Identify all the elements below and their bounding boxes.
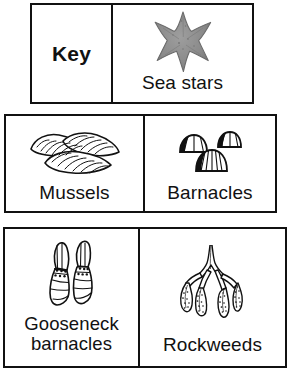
key-entry-label-mussels: Mussels bbox=[6, 183, 143, 211]
intertidal-organisms-key: Key bbox=[0, 0, 297, 381]
key-entry-label-sea-stars: Sea stars bbox=[113, 73, 252, 102]
key-entry-label-line-2: barnacles bbox=[5, 334, 138, 355]
key-title-label: Key bbox=[52, 42, 91, 66]
key-entry-mussels: Mussels bbox=[6, 116, 145, 211]
key-entry-gooseneck-barnacles: Gooseneck barnacles bbox=[5, 229, 140, 366]
mussels-icon bbox=[6, 116, 143, 183]
rockweeds-icon bbox=[140, 229, 285, 335]
key-title-cell: Key bbox=[32, 5, 113, 102]
key-entry-sea-stars: Sea stars bbox=[113, 5, 252, 102]
barnacles-icon bbox=[145, 116, 275, 183]
key-entry-barnacles: Barnacles bbox=[145, 116, 275, 211]
key-row-3: Gooseneck barnacles bbox=[3, 227, 287, 368]
sea-star-icon bbox=[113, 5, 252, 73]
key-entry-label-gooseneck-barnacles: Gooseneck barnacles bbox=[5, 314, 138, 366]
key-entry-label-rockweeds: Rockweeds bbox=[140, 335, 285, 366]
key-row-1: Key bbox=[30, 3, 254, 104]
key-row-2: Mussels bbox=[4, 114, 277, 213]
key-entry-label-line-1: Gooseneck bbox=[5, 314, 138, 335]
gooseneck-barnacles-icon bbox=[5, 229, 138, 314]
key-entry-label-barnacles: Barnacles bbox=[145, 183, 275, 211]
key-entry-rockweeds: Rockweeds bbox=[140, 229, 285, 366]
